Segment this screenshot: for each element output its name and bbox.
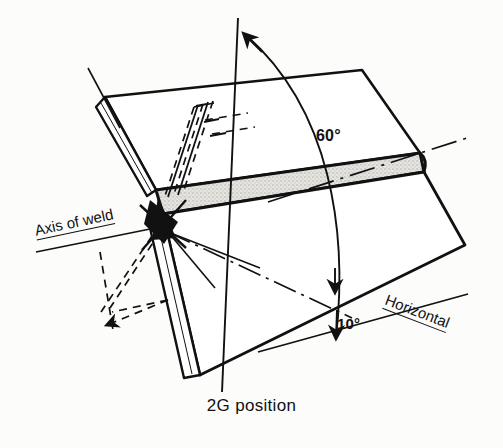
figure-caption: 2G position	[0, 396, 503, 416]
groove-angle-label: 60°	[316, 127, 341, 145]
diagram-page: 60° 10° Axis of weld Horizontal 2G posit…	[0, 0, 503, 448]
tilt-angle-label: 10°	[337, 315, 360, 332]
arc-arrowhead-top	[244, 34, 262, 52]
hidden-construction-arrow	[107, 300, 168, 325]
